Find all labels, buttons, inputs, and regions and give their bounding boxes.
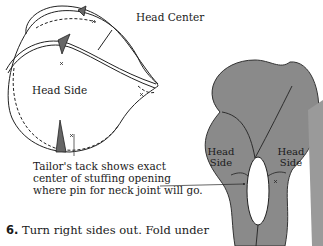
step-6-instruction: 6. Turn right sides out. Fold under (6, 224, 209, 236)
tailor-tack-caption: Tailor's tack shows exact center of stuf… (33, 160, 203, 196)
head-pieces-illustration (6, 6, 158, 152)
label-head-center: Head Center (136, 11, 204, 23)
step-number: 6. (6, 223, 18, 237)
label-head-side: Head Side (32, 84, 87, 96)
label-head-side-left: Head Side (204, 146, 238, 168)
sewing-diagram (0, 0, 323, 246)
step-text: Turn right sides out. Fold under (22, 223, 209, 237)
label-head-side-right: Head Side (274, 146, 308, 168)
